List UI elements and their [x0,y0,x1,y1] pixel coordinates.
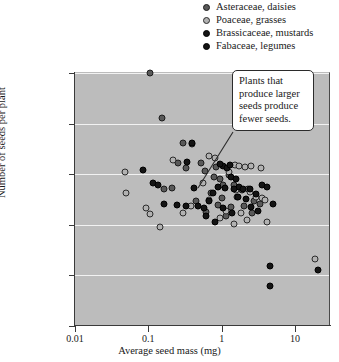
data-point [209,189,216,196]
annotation-callout: Plants that produce larger seeds produce… [232,70,314,131]
data-point [211,218,218,225]
data-point [266,282,273,289]
data-point [157,224,164,231]
x-axis-tick [75,326,76,332]
data-point [203,212,210,219]
data-point [183,165,190,172]
data-point [314,266,321,273]
y-axis-tick [69,124,75,125]
data-point [234,194,241,201]
data-point [146,70,153,77]
x-axis-line [74,325,331,326]
data-point [121,169,128,176]
y-axis-tick [69,225,75,226]
y-axis-tick [69,275,75,276]
x-axis-title: Average seed mass (mg) [0,345,339,356]
data-point [191,185,198,192]
x-axis-tick [295,326,296,332]
seed-mass-scatter-figure: Asteraceae, daisiesPoaceae, grassesBrass… [0,0,339,362]
data-point [184,158,191,165]
gridline-y [75,275,329,276]
data-point [183,203,190,210]
data-point [173,201,180,208]
legend-item-1: Poaceae, grasses [203,14,313,26]
data-point [197,159,204,166]
legend-item-label: Asteraceae, daisies [216,1,296,13]
data-point [180,139,187,146]
data-point [243,216,250,223]
data-point [202,168,209,175]
data-point [140,167,147,174]
legend-item-2: Brassicaceae, mustards [203,27,313,39]
data-point [257,165,264,172]
x-axis-tick [148,326,149,332]
data-point [240,202,247,209]
data-point [199,179,206,186]
data-point [230,185,237,192]
data-point [161,200,168,207]
data-point [200,205,207,212]
data-point [248,163,255,170]
legend: Asteraceae, daisiesPoaceae, grassesBrass… [203,1,313,52]
data-point [238,210,245,217]
data-point [229,210,236,217]
data-point [188,139,195,146]
data-point [263,218,270,225]
x-axis-tick-label: 0.1 [142,333,155,344]
data-point [269,200,276,207]
gridline-y [75,225,329,226]
circle-black-icon [203,30,210,37]
data-point [243,196,250,203]
data-point [220,204,227,211]
data-point [161,185,168,192]
data-point [123,190,130,197]
annotation-text: Plants that produce larger seeds produce… [239,75,300,124]
legend-item-0: Asteraceae, daisies [203,1,313,13]
data-point [169,157,176,164]
x-axis-tick-label: 0.01 [66,333,84,344]
x-axis-tick-label: 1 [219,333,224,344]
data-point [217,160,224,167]
data-point [252,190,259,197]
circle-dark-gray-icon [203,4,210,11]
y-axis-tick [69,174,75,175]
legend-item-label: Fabaceae, legumes [216,40,295,52]
data-point [154,181,161,188]
data-point [180,210,187,217]
data-point [239,186,246,193]
circle-light-gray-icon [203,17,210,24]
data-point [232,175,239,182]
data-point [159,114,166,121]
x-axis-tick-label: 10 [290,333,300,344]
data-point [264,184,271,191]
data-point [146,210,153,217]
legend-item-label: Poaceae, grasses [216,14,286,26]
data-point [262,196,269,203]
y-axis-tick [69,73,75,74]
data-point [168,184,175,191]
data-point [312,256,319,263]
data-point [227,162,234,169]
data-point [254,207,261,214]
x-axis-tick [222,326,223,332]
legend-item-label: Brassicaceae, mustards [216,27,313,39]
data-point [221,184,228,191]
data-point [267,263,274,270]
circle-black-icon [203,43,210,50]
data-point [206,198,213,205]
data-point [230,220,237,227]
legend-item-3: Fabaceae, legumes [203,40,313,52]
y-axis-title: Number of seeds per plant [0,87,7,198]
gridline-y [75,174,329,175]
